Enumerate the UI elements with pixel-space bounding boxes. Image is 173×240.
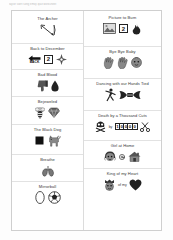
- text-token: by: [108, 125, 113, 129]
- number-box-icon: 2: [119, 24, 128, 33]
- song-title: Dancing with our Hands Tied: [96, 81, 149, 86]
- song-title: Bye Bye Baby: [109, 49, 135, 54]
- odometer-icon: 1 0 0 0 0: [115, 123, 138, 130]
- glyph-row: [35, 133, 61, 149]
- song-title: Breathe: [40, 157, 55, 162]
- quiz-entry[interactable]: Mirrorball: [12, 182, 83, 212]
- gem-icon: [48, 107, 60, 118]
- quiz-entry[interactable]: The Black Dog: [12, 125, 83, 155]
- glyph-row: [37, 78, 59, 94]
- song-title: The Black Dog: [34, 127, 62, 132]
- picture-frame-icon: [103, 23, 116, 34]
- quiz-entry[interactable]: Girl at Home: [84, 141, 161, 169]
- quiz-entry[interactable]: King of my Heart of my: [84, 169, 161, 197]
- song-title: Death by a Thousand Cuts: [98, 113, 147, 118]
- quiz-entry[interactable]: Bad Blood: [12, 70, 83, 97]
- glyph-row: [103, 55, 142, 71]
- left-column: The Archer Back to December: [12, 11, 84, 230]
- tied-hands-icon: [119, 90, 141, 100]
- song-title: Bejeweled: [38, 99, 57, 104]
- at-sign-icon: [119, 154, 125, 160]
- skull-and-crossbones-icon: [95, 121, 106, 132]
- quiz-entry[interactable]: Death by a Thousand Cuts by 1: [84, 111, 161, 141]
- glyph-row: 2: [103, 21, 142, 37]
- lungs-icon: [41, 165, 55, 177]
- bow-and-arrow-icon: [39, 23, 57, 37]
- compass-rose-icon: [56, 54, 67, 65]
- heart-icon: [129, 179, 142, 191]
- fire-icon: [131, 23, 142, 35]
- house-icon: [128, 151, 141, 162]
- glyph-row: [104, 87, 141, 103]
- back-label: BACK: [30, 61, 40, 64]
- blood-drop-icon: [51, 80, 59, 92]
- quiz-entry[interactable]: Bejeweled: [12, 97, 83, 125]
- scissors-icon: [140, 122, 150, 132]
- waving-hand-icon: [117, 57, 128, 69]
- song-title: Back to December: [30, 46, 64, 51]
- quiz-entry[interactable]: The Archer: [12, 14, 83, 44]
- glyph-row: [104, 149, 141, 165]
- glyph-row: [35, 190, 61, 206]
- waving-hand-icon: [103, 57, 114, 69]
- black-square-icon: [35, 136, 44, 145]
- quiz-entry[interactable]: Picture to Burn 2: [84, 13, 161, 47]
- mirror-icon: [35, 191, 45, 204]
- quiz-sheet: The Archer Back to December: [11, 10, 162, 231]
- odometer-digit: 0: [133, 124, 137, 129]
- dancer-icon: [104, 88, 116, 102]
- quiz-entry[interactable]: Bye Bye Baby: [84, 47, 161, 79]
- song-title: Bad Blood: [38, 72, 57, 77]
- back-arrow-icon: BACK: [28, 55, 41, 64]
- song-title: Picture to Burn: [109, 15, 137, 20]
- song-title: Mirrorball: [39, 184, 57, 189]
- glyph-row: [39, 22, 57, 38]
- song-title: King of my Heart: [107, 171, 138, 176]
- quiz-entry[interactable]: Breathe: [12, 155, 83, 182]
- quiz-entry[interactable]: Dancing with our Hands Tied: [84, 79, 161, 111]
- glyph-row: BACK 2: [28, 52, 67, 68]
- glyph-row: [41, 163, 55, 179]
- soccer-ball-icon: [48, 191, 61, 204]
- girl-face-icon: [104, 151, 116, 162]
- song-title: The Archer: [37, 16, 58, 21]
- document-header-note: taylor swift song emoji quiz worksheet: [9, 3, 109, 6]
- bee-icon: [35, 107, 45, 119]
- number-box-icon: 2: [44, 55, 53, 64]
- dog-icon: [47, 135, 61, 147]
- thumbs-down-icon: [37, 80, 48, 92]
- glyph-row: by 1 0 0 0 0: [95, 119, 150, 135]
- song-title: Girl at Home: [111, 143, 135, 148]
- glyph-row: [35, 105, 60, 121]
- king-face-icon: [103, 179, 116, 191]
- worksheet-page: taylor swift song emoji quiz worksheet T…: [0, 0, 173, 240]
- quiz-entry[interactable]: Back to December BACK 2: [12, 44, 83, 70]
- baby-face-icon: [131, 57, 142, 68]
- right-column: Picture to Burn 2: [84, 11, 161, 230]
- glyph-row: of my: [103, 177, 143, 193]
- text-token: of my: [118, 183, 128, 187]
